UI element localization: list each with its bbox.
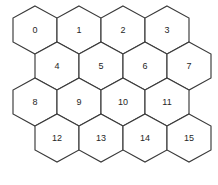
hex-grid-figure: 0123456789101112131415 <box>0 0 218 185</box>
hex-cell-label-1: 1 <box>76 25 81 35</box>
hex-cells-group: 0123456789101112131415 <box>13 6 211 162</box>
hex-cell-label-15: 15 <box>184 133 194 143</box>
hex-cell-label-4: 4 <box>54 61 59 71</box>
hex-cell-label-9: 9 <box>76 97 81 107</box>
hex-cell-label-13: 13 <box>96 133 106 143</box>
hex-cell-label-7: 7 <box>186 61 191 71</box>
hex-cell-label-10: 10 <box>118 97 128 107</box>
hex-cell-label-3: 3 <box>164 25 169 35</box>
hex-cell-label-0: 0 <box>32 25 37 35</box>
hex-cell-label-11: 11 <box>162 97 172 107</box>
hex-grid-canvas: 0123456789101112131415 <box>0 0 218 185</box>
hex-cell-label-8: 8 <box>32 97 37 107</box>
hex-cell-label-2: 2 <box>120 25 125 35</box>
hex-cell-label-5: 5 <box>98 61 103 71</box>
hex-cell-label-14: 14 <box>140 133 150 143</box>
hex-cell-label-6: 6 <box>142 61 147 71</box>
hex-cell-label-12: 12 <box>52 133 62 143</box>
